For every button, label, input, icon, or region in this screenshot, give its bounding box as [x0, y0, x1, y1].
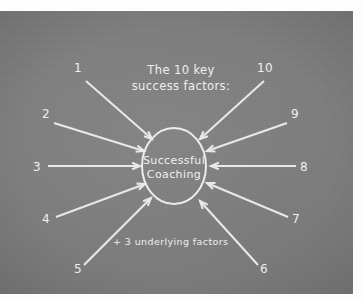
arrow-label-9: 9	[291, 107, 299, 121]
diagram-title-line-2: success factors:	[132, 79, 231, 93]
arrow-label-8: 8	[300, 160, 308, 174]
arrow-label-2: 2	[42, 107, 50, 121]
center-label-line-1: Successful	[143, 154, 205, 167]
arrow-3	[48, 163, 140, 170]
arrow-6	[200, 201, 258, 265]
arrow-shaft	[200, 201, 258, 265]
arrow-label-5: 5	[74, 262, 82, 276]
diagram-title-line-1: The 10 key	[146, 63, 214, 77]
arrow-shaft	[84, 198, 151, 265]
arrow-5	[84, 198, 151, 265]
arrow-label-3: 3	[33, 160, 41, 174]
arrow-shaft	[54, 123, 144, 151]
arrow-label-1: 1	[74, 61, 82, 75]
arrow-2	[54, 123, 144, 152]
arrow-4	[56, 184, 145, 217]
arrow-shaft	[207, 123, 287, 151]
diagram-board: 12345678910 The 10 key success factors: …	[0, 11, 353, 294]
arrow-7	[207, 183, 288, 217]
center-label-line-2: Coaching	[147, 168, 201, 181]
arrow-shaft	[56, 184, 145, 217]
arrow-label-4: 4	[42, 212, 50, 226]
diagram-canvas: 12345678910 The 10 key success factors: …	[0, 11, 353, 294]
arrow-8	[211, 163, 296, 170]
arrow-label-7: 7	[292, 212, 300, 226]
arrow-label-10: 10	[257, 61, 273, 75]
underlying-factors-note: + 3 underlying factors	[113, 236, 228, 247]
arrow-label-6: 6	[260, 262, 268, 276]
arrow-9	[207, 123, 287, 152]
screenshot-root: 12345678910 The 10 key success factors: …	[0, 0, 362, 302]
arrow-shaft	[207, 183, 288, 217]
